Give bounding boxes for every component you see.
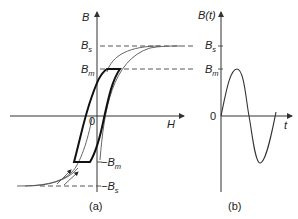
bm-label: Bm [81, 63, 95, 78]
arrow-up [64, 172, 78, 185]
caption-a: (a) [89, 200, 102, 212]
neg-bm-label: −Bm [101, 156, 121, 171]
arrow-down [57, 170, 71, 184]
bs-label-b: Bs [205, 39, 216, 54]
bt-axis-label: B(t) [198, 9, 216, 21]
origin-label-b: 0 [210, 110, 216, 122]
hysteresis-figure: B Bs Bm 0 H −Bm −Bs (a) B(t) Bs Bm 0 t (… [0, 0, 298, 219]
upper-saturation-curve [100, 46, 180, 160]
b-axis-label: B [82, 11, 89, 23]
bm-label-b: Bm [205, 63, 219, 78]
lower-saturation-curve [17, 118, 92, 186]
origin-label: 0 [89, 115, 95, 127]
panel-a-hysteresis-loop: B Bs Bm 0 H −Bm −Bs (a) [10, 11, 196, 212]
h-axis-label: H [167, 118, 175, 130]
t-axis-label: t [284, 119, 288, 131]
neg-bs-label: −Bs [101, 180, 119, 195]
panel-b-sinusoid: B(t) Bs Bm 0 t (b) [198, 9, 292, 212]
bs-label: Bs [81, 39, 92, 54]
caption-b: (b) [228, 200, 241, 212]
